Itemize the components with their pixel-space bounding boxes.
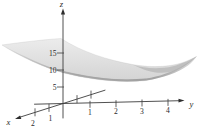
z-tick-label: 10 bbox=[49, 66, 57, 75]
y-axis-label: y bbox=[189, 99, 194, 109]
y-axis-arrow-icon bbox=[179, 99, 185, 103]
surface-plot: z y x 5 10 15 1 2 3 4 1 2 bbox=[0, 0, 205, 131]
z-tick-label: 5 bbox=[53, 83, 57, 92]
x-axis-label: x bbox=[6, 117, 11, 127]
y-tick-label: 2 bbox=[114, 107, 118, 116]
z-axis-arrow-icon bbox=[61, 9, 65, 15]
figure-canvas: z y x 5 10 15 1 2 3 4 1 2 bbox=[0, 0, 205, 131]
y-axis-line bbox=[35, 101, 180, 105]
z-tick-label: 15 bbox=[49, 49, 57, 58]
z-axis-label: z bbox=[59, 0, 64, 9]
x-tick-label: 2 bbox=[31, 119, 35, 128]
x-axis-line bbox=[18, 90, 105, 118]
y-tick-label: 4 bbox=[166, 106, 170, 115]
y-axis-ticks bbox=[90, 99, 168, 108]
y-tick-label: 1 bbox=[88, 108, 92, 117]
x-axis-arrow-icon bbox=[15, 115, 21, 119]
y-tick-label: 3 bbox=[140, 107, 144, 116]
x-tick-label: 1 bbox=[49, 114, 53, 123]
surface bbox=[2, 39, 197, 82]
